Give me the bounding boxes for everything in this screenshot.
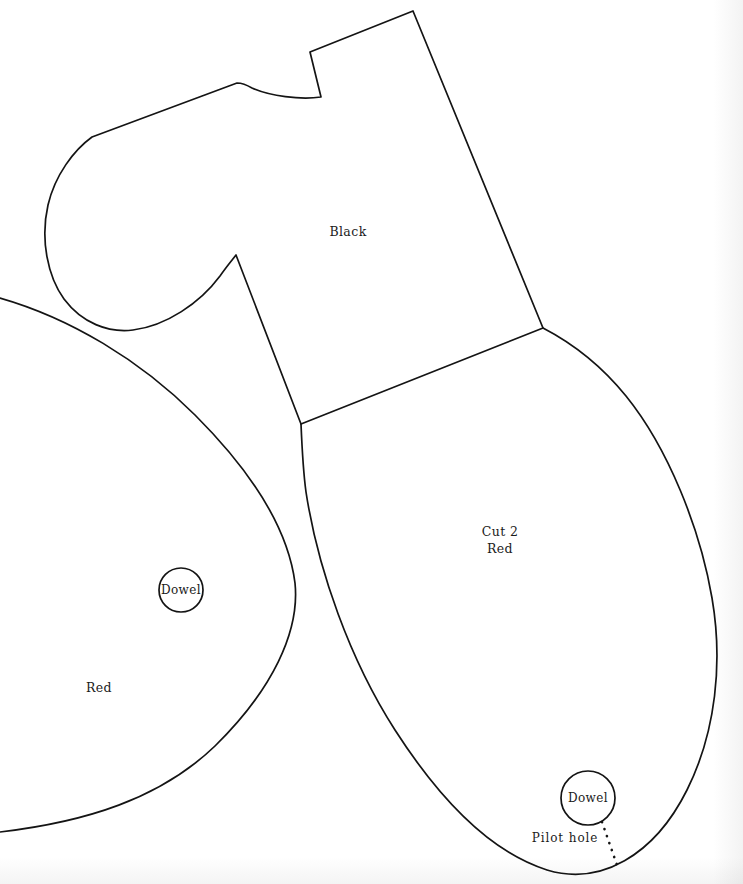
- label-main-red-cut-count: Cut 2: [482, 523, 519, 540]
- label-black-piece: Black: [329, 224, 366, 239]
- pattern-drawing: [0, 0, 743, 884]
- label-pilot-hole: Pilot hole: [532, 831, 599, 845]
- black-piece-outline: [45, 11, 543, 424]
- left-red-piece-outline: [0, 298, 296, 832]
- pilot-hole-leader-line: [602, 822, 618, 868]
- pattern-page: Black Cut 2 Red Red Dowel Dowel Pilot ho…: [0, 0, 743, 884]
- label-main-red-color: Red: [482, 540, 519, 557]
- label-main-red-piece: Cut 2 Red: [482, 523, 519, 557]
- label-dowel-right: Dowel: [568, 791, 608, 805]
- main-red-piece-outline: [301, 328, 717, 874]
- label-left-red-piece: Red: [86, 680, 112, 695]
- label-dowel-left: Dowel: [161, 583, 201, 597]
